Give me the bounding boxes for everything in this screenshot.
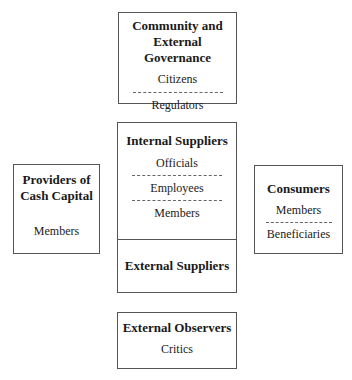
- dashed-divider: [132, 175, 222, 176]
- item-officials: Officials: [118, 156, 236, 171]
- external-suppliers-section: External Suppliers: [118, 240, 236, 292]
- title-line: Cash Capital: [14, 188, 99, 204]
- dashed-divider: [133, 92, 223, 93]
- item-citizens: Citizens: [119, 72, 236, 87]
- item-members: Members: [14, 224, 99, 239]
- item-beneficiaries: Beneficiaries: [255, 227, 342, 242]
- providers-title: Providers of Cash Capital: [14, 172, 99, 204]
- providers-box: Providers of Cash Capital Members: [13, 164, 100, 254]
- title-line: Community and: [119, 18, 236, 34]
- title-line: External Governance: [119, 34, 236, 66]
- dashed-divider: [132, 200, 222, 201]
- internal-suppliers-section: Internal Suppliers Officials Employees M…: [118, 123, 236, 240]
- consumers-title: Consumers: [255, 181, 342, 197]
- item-critics: Critics: [118, 342, 236, 357]
- consumers-box: Consumers Members Beneficiaries: [254, 165, 343, 254]
- external-suppliers-title: External Suppliers: [125, 258, 229, 274]
- dashed-divider: [266, 222, 332, 223]
- suppliers-box: Internal Suppliers Officials Employees M…: [117, 122, 237, 293]
- observers-box: External Observers Critics: [117, 312, 237, 369]
- observers-title: External Observers: [118, 320, 236, 336]
- community-governance-box: Community and External Governance Citize…: [118, 12, 237, 104]
- item-employees: Employees: [118, 181, 236, 196]
- item-regulators: Regulators: [119, 98, 236, 113]
- community-governance-title: Community and External Governance: [119, 18, 236, 66]
- item-members: Members: [118, 206, 236, 221]
- title-line: Providers of: [14, 172, 99, 188]
- item-members: Members: [255, 203, 342, 218]
- internal-suppliers-title: Internal Suppliers: [118, 123, 236, 149]
